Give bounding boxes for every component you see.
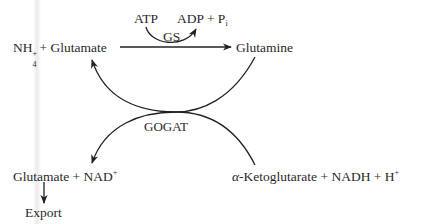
export-label: Export xyxy=(25,205,62,220)
gogat-enzyme-label: GOGAT xyxy=(144,119,188,134)
ketoglutarate-label: α-Ketoglutarate + NADH + H+ xyxy=(232,165,399,184)
ammonium-glutamate-label: NH+4+ Glutamate xyxy=(13,40,107,55)
nh-text: NH xyxy=(13,40,33,55)
pi-subscript: i xyxy=(225,19,227,28)
atp-label: ATP xyxy=(134,11,158,26)
glutamate-text: + Glutamate xyxy=(40,40,107,55)
pathway-arrows xyxy=(0,0,424,224)
ketoglutarate-text: -Ketoglutarate + NADH + H xyxy=(239,169,394,184)
glutamate-nad-text: Glutamate + NAD xyxy=(13,169,113,184)
gs-enzyme-label: GS xyxy=(163,29,180,44)
glutamate-nad-label: Glutamate + NAD+ xyxy=(13,165,117,184)
h-superscript: + xyxy=(395,168,400,177)
adp-pi-label: ADP + Pi xyxy=(177,11,228,31)
glutamine-to-glutamate-arc xyxy=(92,57,255,112)
glutamine-label: Glutamine xyxy=(236,40,293,55)
adp-pi-text: ADP + P xyxy=(177,11,225,26)
nh4-subscript: 4 xyxy=(33,57,37,72)
nad-superscript: + xyxy=(113,168,118,177)
